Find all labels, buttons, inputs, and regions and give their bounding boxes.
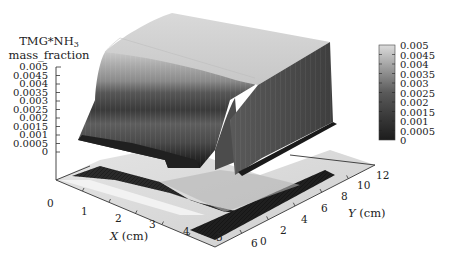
y-axis-title: Y (cm) [348, 208, 386, 220]
x-axis-unit: (cm) [122, 229, 148, 243]
title-line2: mass_fraction [9, 48, 90, 62]
colorbar [379, 45, 395, 140]
y-tick: 8 [341, 191, 348, 202]
x-tick: 1 [81, 206, 88, 217]
chart-title: TMG*NH3 mass_fraction [4, 34, 94, 62]
x-tick: 3 [149, 219, 156, 230]
y-tick: 6 [321, 203, 328, 214]
y-tick: 2 [280, 225, 287, 236]
y-tick: 0 [260, 236, 267, 247]
x-tick: 6 [251, 238, 258, 249]
y-axis-var: Y [348, 206, 356, 220]
y-tick: 12 [376, 170, 389, 181]
x-axis-title: X (cm) [110, 231, 148, 243]
z-axis-ticks [56, 67, 61, 152]
x-tick: 2 [115, 213, 122, 224]
title-main: TMG*NH [19, 34, 73, 48]
x-tick: 0 [47, 198, 54, 209]
x-axis-var: X [110, 229, 118, 243]
y-tick: 10 [357, 180, 370, 191]
z-tick: 0 [0, 147, 48, 157]
x-tick: 4 [183, 226, 190, 237]
y-tick: 4 [301, 214, 308, 225]
colorbar-tick: 0 [400, 136, 406, 146]
y-axis-unit: (cm) [359, 206, 385, 220]
x-tick: 5 [216, 232, 223, 243]
